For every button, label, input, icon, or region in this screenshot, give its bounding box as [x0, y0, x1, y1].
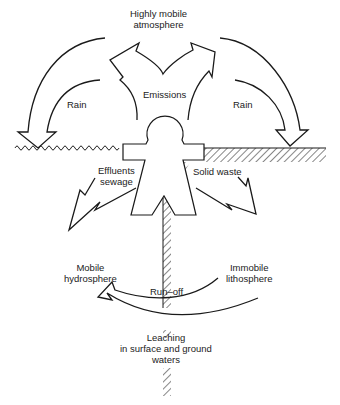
effluents-label-line1: Effluents — [98, 165, 135, 176]
effluents-label-line2: sewage — [98, 176, 135, 187]
atmosphere-label: Highly mobile atmosphere — [130, 8, 187, 30]
runoff-label: Run–off — [150, 286, 183, 297]
lithosphere-label-line1: Immobile — [226, 262, 272, 273]
rain-arrow-left — [18, 38, 105, 148]
atmosphere-label-line1: Highly mobile — [130, 8, 187, 19]
atmosphere-label-line2: atmosphere — [130, 19, 187, 30]
emissions-arrow — [110, 43, 215, 120]
rain-right-label: Rain — [233, 99, 253, 110]
effluents-label: Effluents sewage — [98, 165, 135, 187]
lithosphere-label: Immobile lithosphere — [226, 262, 272, 284]
leaching-label: Leaching in surface and ground waters — [120, 332, 212, 365]
hydrosphere-label: Mobile hydrosphere — [64, 262, 117, 284]
hydrosphere-label-line2: hydrosphere — [64, 273, 117, 284]
water-surface — [15, 146, 119, 150]
lithosphere-label-line2: lithosphere — [226, 273, 272, 284]
hydrosphere-label-line1: Mobile — [64, 262, 117, 273]
rain-left-label: Rain — [67, 99, 87, 110]
leaching-label-line1: Leaching — [120, 332, 212, 343]
emissions-label: Emissions — [143, 89, 186, 100]
leaching-label-line2: in surface and ground — [120, 343, 212, 354]
solid-waste-arrow — [196, 177, 256, 214]
leaching-label-line3: waters — [120, 354, 212, 365]
ground-surface — [204, 148, 326, 162]
rain-arrow-right — [220, 38, 308, 146]
solid-waste-label: Solid waste — [193, 166, 242, 177]
